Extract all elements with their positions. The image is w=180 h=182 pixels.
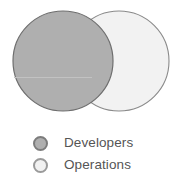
chart-legend: Developers Operations — [0, 126, 180, 182]
legend-item-label: Operations — [64, 157, 131, 173]
circle-marker-icon — [33, 136, 48, 151]
legend-item-operations[interactable]: Operations — [33, 155, 131, 175]
venn-circle-developers[interactable] — [13, 11, 113, 111]
legend-item-label: Developers — [64, 135, 133, 151]
venn-plot-area — [0, 0, 180, 122]
venn-svg — [0, 0, 180, 122]
venn-diagram-figure: Developers Operations — [0, 0, 180, 182]
circle-marker-icon — [33, 158, 48, 173]
legend-item-developers[interactable]: Developers — [33, 133, 133, 153]
